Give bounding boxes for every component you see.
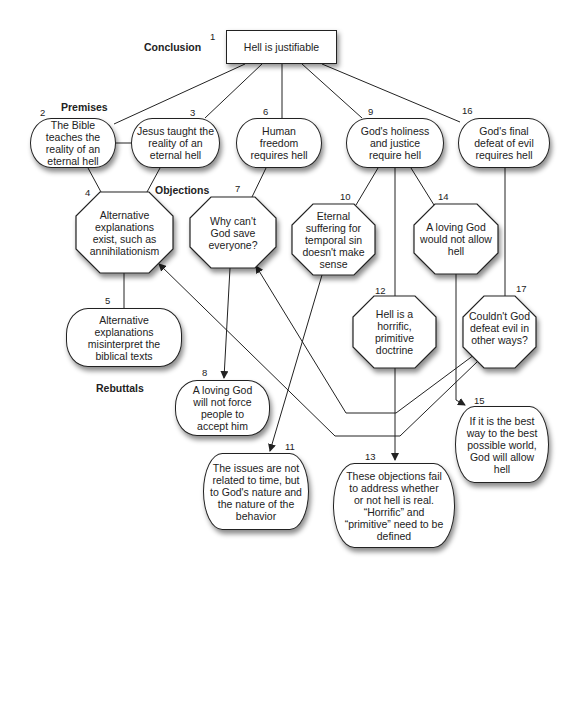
node-number-6: 6 [263, 106, 268, 117]
node-12-text: Hell is a horrific, primitive doctrine [371, 308, 418, 356]
node-17-text: Couldn't God defeat evil in other ways? [465, 310, 534, 346]
node-number-3: 3 [190, 107, 195, 118]
node-number-16: 16 [462, 105, 473, 116]
node-10-text: Eternal suffering for temporal sin doesn… [298, 210, 369, 270]
node-12-objection: Hell is a horrific, primitive doctrine [353, 296, 436, 368]
node-17-objection: Couldn't God defeat evil in other ways? [463, 296, 536, 360]
node-1-text: Hell is justifiable [244, 41, 319, 53]
section-label-rebuttals: Rebuttals [96, 382, 144, 394]
edge-1-3 [205, 64, 262, 118]
node-number-9: 9 [368, 106, 373, 117]
node-number-12: 12 [375, 285, 386, 296]
node-15-rebuttal: If it is the best way to the best possib… [455, 406, 549, 483]
node-2-text: The Bible teaches the reality of an eter… [35, 119, 111, 167]
node-number-5: 5 [105, 295, 110, 306]
node-number-14: 14 [438, 191, 449, 202]
section-label-conclusion: Conclusion [144, 41, 201, 53]
node-11-rebuttal: The issues are not related to time, but … [203, 453, 309, 530]
node-2-premise: The Bible teaches the reality of an eter… [30, 118, 116, 168]
edge-9-10 [356, 168, 378, 205]
section-label-premises: Premises [61, 101, 108, 113]
edge-9-14 [411, 168, 434, 205]
edge-6-7 [252, 168, 266, 197]
node-11-text: The issues are not related to time, but … [210, 462, 302, 522]
edge-1-9 [302, 64, 362, 118]
node-9-premise: God's holiness and justice require hell [346, 118, 444, 168]
node-16-text: God's final defeat of evil requires hell [469, 125, 539, 161]
node-14-text: A loving God would not allow hell [418, 221, 494, 257]
node-3-text: Jesus taught the reality of an eternal h… [136, 125, 215, 161]
node-4-text: Alternative explanations exist, such as … [82, 209, 167, 257]
node-number-2: 2 [40, 107, 45, 118]
node-5-rebuttal: Alternative explanations misinterpret th… [66, 308, 182, 367]
node-9-text: God's holiness and justice require hell [359, 125, 431, 161]
node-16-premise: God's final defeat of evil requires hell [458, 118, 550, 168]
node-6-premise: Human freedom requires hell [236, 118, 322, 168]
node-8-rebuttal: A loving God will not force people to ac… [175, 380, 270, 436]
node-number-10: 10 [340, 191, 351, 202]
node-10-objection: Eternal suffering for temporal sin doesn… [292, 204, 375, 275]
node-number-11: 11 [285, 441, 295, 452]
node-6-text: Human freedom requires hell [249, 125, 309, 161]
node-number-1: 1 [210, 31, 215, 42]
node-number-8: 8 [202, 367, 207, 378]
node-4-objection: Alternative explanations exist, such as … [76, 192, 173, 273]
node-15-text: If it is the best way to the best possib… [466, 415, 538, 475]
node-number-7: 7 [235, 183, 240, 194]
node-7-text: Why can't God save everyone? [204, 215, 262, 251]
node-8-text: A loving God will not force people to ac… [186, 384, 259, 432]
node-7-objection: Why can't God save everyone? [190, 197, 276, 268]
edge-1-2 [114, 64, 245, 124]
node-14-objection: A loving God would not allow hell [414, 204, 498, 274]
node-5-text: Alternative explanations misinterpret th… [81, 314, 167, 362]
node-3-premise: Jesus taught the reality of an eternal h… [131, 118, 220, 168]
node-13-text: These objections fail to address whether… [344, 470, 444, 542]
node-number-17: 17 [516, 283, 527, 294]
edge-1-16 [322, 64, 460, 122]
node-13-rebuttal: These objections fail to address whether… [333, 463, 455, 548]
node-1-conclusion: Hell is justifiable [226, 30, 337, 64]
node-number-15: 15 [474, 395, 485, 406]
node-number-13: 13 [365, 451, 376, 462]
edge-7-8 [224, 268, 230, 378]
